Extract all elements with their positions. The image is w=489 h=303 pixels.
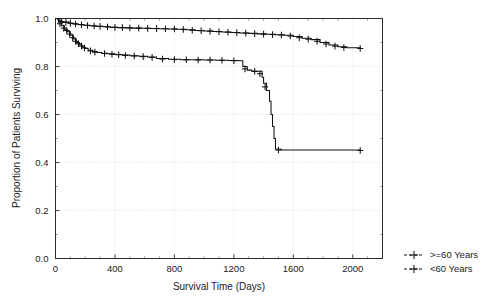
censor-tick	[171, 56, 177, 63]
censor-tick	[79, 21, 85, 28]
censor-tick	[207, 28, 213, 35]
censor-tick	[91, 23, 97, 30]
legend-label-ge60: >=60 Years	[430, 249, 478, 260]
censor-tick	[127, 25, 133, 32]
censor-tick	[198, 27, 204, 34]
x-tick-label: 2000	[342, 263, 363, 274]
censor-tick	[171, 26, 177, 33]
censor-tick	[270, 31, 276, 38]
x-tick-label: 400	[107, 263, 123, 274]
censor-tick	[102, 50, 108, 57]
censor-tick	[63, 19, 69, 26]
survival-curve-ge60	[56, 19, 361, 49]
censor-tick	[341, 44, 347, 51]
x-axis-tick-labels: 0400800120016002000	[53, 263, 363, 274]
censor-tick	[109, 51, 115, 58]
censor-tick	[73, 21, 79, 28]
y-axis-title: Proportion of Patients Surviving	[11, 68, 22, 208]
censor-tick	[122, 52, 128, 59]
censor-tick	[225, 29, 231, 36]
censor-tick	[305, 36, 311, 43]
censor-tick	[332, 43, 338, 50]
censor-tick	[149, 54, 155, 61]
survival-plot-figure: 0.00.20.40.60.81.0 0400800120016002000 S…	[0, 0, 489, 303]
censor-tick	[145, 25, 151, 32]
y-tick-label: 0.0	[35, 253, 48, 264]
censor-tick	[252, 68, 258, 75]
y-axis-tick-labels: 0.00.20.40.60.81.0	[35, 13, 48, 264]
legend-label-lt60: <60 Years	[430, 263, 473, 274]
censor-tick	[278, 32, 284, 39]
censor-tick	[116, 51, 122, 58]
censor-tick	[275, 147, 281, 154]
survival-curve-lt60	[56, 19, 361, 151]
censor-tick	[261, 31, 267, 38]
censor-tick	[140, 53, 146, 60]
legend-item-ge60[interactable]: >=60 Years	[404, 249, 478, 260]
censor-tick	[287, 33, 293, 40]
censor-tick	[216, 28, 222, 35]
censor-tick	[243, 30, 249, 37]
y-tick-label: 0.8	[35, 61, 48, 72]
censor-tick	[119, 24, 125, 31]
censor-tick	[357, 147, 363, 154]
censor-tick	[180, 26, 186, 33]
censor-marks	[57, 18, 363, 153]
censor-tick	[323, 41, 329, 48]
x-axis-title: Survival Time (Days)	[173, 281, 265, 292]
censor-tick	[67, 20, 73, 27]
censor-tick	[357, 45, 363, 52]
x-tick-label: 1200	[223, 263, 244, 274]
censor-tick	[262, 84, 268, 91]
censor-tick	[162, 26, 168, 33]
censor-tick	[97, 23, 103, 30]
legend-item-lt60[interactable]: <60 Years	[404, 263, 473, 274]
y-tick-label: 1.0	[35, 13, 48, 24]
chart-legend: >=60 Years <60 Years	[404, 249, 478, 274]
censor-tick	[160, 56, 166, 63]
censor-tick	[231, 57, 237, 64]
y-tick-label: 0.6	[35, 109, 48, 120]
x-tick-label: 1600	[283, 263, 304, 274]
survival-curves	[56, 19, 361, 151]
censor-tick	[105, 24, 111, 31]
censor-tick	[314, 38, 320, 45]
censor-tick	[207, 57, 213, 64]
x-tick-label: 0	[53, 263, 58, 274]
censor-tick	[136, 25, 142, 32]
censor-tick	[84, 22, 90, 29]
censor-tick	[219, 57, 225, 64]
censor-tick	[234, 29, 240, 36]
censor-tick	[252, 30, 258, 37]
x-tick-label: 800	[166, 263, 182, 274]
censor-tick	[189, 27, 195, 34]
censor-tick	[195, 57, 201, 64]
censor-tick	[154, 25, 160, 32]
censor-tick	[112, 24, 118, 31]
censor-tick	[131, 53, 137, 60]
y-tick-label: 0.4	[35, 157, 48, 168]
y-tick-label: 0.2	[35, 205, 48, 216]
censor-tick	[183, 56, 189, 63]
kaplan-meier-chart: 0.00.20.40.60.81.0 0400800120016002000 S…	[0, 0, 489, 303]
censor-tick	[296, 34, 302, 41]
